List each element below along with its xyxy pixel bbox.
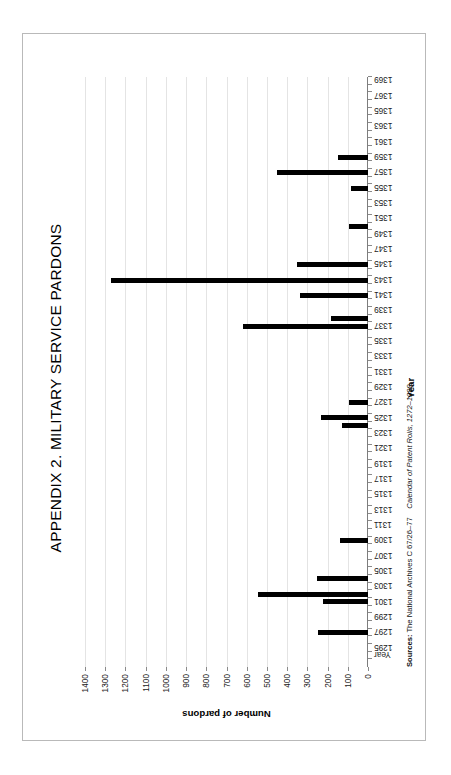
category-axis-label: 1361 [374,137,392,147]
category-axis-label: 1329 [374,382,392,392]
bar [321,415,369,420]
category-axis-tick [368,505,372,506]
category-axis-tick [368,620,372,621]
y-axis-tick-label: 500 [262,674,272,688]
gridline [105,77,106,667]
category-axis-tick [368,605,372,606]
rotation-stage: APPENDIX 2. MILITARY SERVICE PARDONS Num… [23,34,427,742]
y-axis-tick-label: 900 [181,674,191,688]
category-axis-tick [368,222,372,223]
category-axis-tick [368,245,372,246]
y-axis-tick [287,667,288,671]
y-axis-tick [368,667,369,671]
category-axis-label: 1301 [374,597,392,607]
y-axis-tick-label: 1400 [80,674,90,692]
category-axis-tick [368,275,372,276]
rotated-chart-container: APPENDIX 2. MILITARY SERVICE PARDONS Num… [23,34,427,742]
category-axis-tick [368,536,372,537]
bar [317,576,368,581]
category-axis-tick [368,306,372,307]
y-axis-tick [186,667,187,671]
y-axis-tick-label: 600 [242,674,252,688]
bar [349,224,368,229]
category-axis-tick [368,107,372,108]
category-axis-tick [368,643,372,644]
category-axis-label: 1295 [374,643,392,653]
bar [342,423,368,428]
category-axis-tick [368,314,372,315]
category-axis-tick [368,91,372,92]
gridline [227,77,228,667]
category-axis-tick [368,214,372,215]
category-axis-tick [368,628,372,629]
category-axis-tick [368,405,372,406]
category-axis-tick [368,291,372,292]
bar [349,400,368,405]
category-axis-tick [368,260,372,261]
gridline [287,77,288,667]
category-axis-tick [368,252,372,253]
category-axis-tick [368,467,372,468]
category-axis-tick [368,383,372,384]
category-axis-label: 1313 [374,505,392,515]
category-axis-tick [368,145,372,146]
category-axis-tick [368,237,372,238]
category-axis-label: 1311 [374,520,392,530]
category-axis-tick [368,428,372,429]
sources-label: Sources: [405,635,414,668]
category-axis-label: 1357 [374,167,392,177]
category-axis-label: 1319 [374,459,392,469]
category-axis-label: 1331 [374,367,392,377]
bar [297,262,368,267]
category-axis-label: 1363 [374,121,392,131]
category-axis-tick [368,482,372,483]
category-axis-tick [368,551,372,552]
category-axis-label: 1307 [374,551,392,561]
category-axis-label: 1349 [374,229,392,239]
category-axis-tick [368,589,372,590]
category-axis-tick [368,520,372,521]
category-axis-tick [368,559,372,560]
category-axis-tick [368,398,372,399]
category-axis-tick [368,574,372,575]
category-axis-tick [368,413,372,414]
gridline [247,77,248,667]
category-axis-tick [368,191,372,192]
gridline [186,77,187,667]
category-axis-tick [368,344,372,345]
y-axis-tick-label: 1200 [120,674,130,692]
category-axis-tick [368,122,372,123]
y-axis-tick-label: 300 [302,674,312,688]
y-axis-tick [105,667,106,671]
category-axis-label: 1339 [374,305,392,315]
category-axis-tick [368,137,372,138]
category-axis-tick [368,474,372,475]
category-axis-label: 1323 [374,428,392,438]
y-axis-tick [267,667,268,671]
bar [300,293,368,298]
category-axis-label: 1343 [374,275,392,285]
category-axis-tick [368,490,372,491]
category-axis-label: 1347 [374,244,392,254]
category-axis-label: 1305 [374,566,392,576]
bar [243,324,368,329]
category-axis-tick [368,635,372,636]
chart-page-frame: APPENDIX 2. MILITARY SERVICE PARDONS Num… [22,33,426,741]
gridline [206,77,207,667]
category-axis-label: 1369 [374,76,392,86]
category-axis-tick [368,444,372,445]
bar [351,186,368,191]
y-axis-title-label: Number of pardons [182,709,270,720]
y-axis-tick [247,667,248,671]
category-axis-label: 1337 [374,321,392,331]
bar [323,599,368,604]
category-axis-tick [368,582,372,583]
y-axis-tick [307,667,308,671]
category-axis-tick [368,375,372,376]
category-axis-label: 1327 [374,397,392,407]
chart-title: APPENDIX 2. MILITARY SERVICE PARDONS [47,34,65,742]
bar [338,155,368,160]
category-axis-label: 1317 [374,474,392,484]
bar [331,316,368,321]
category-axis-tick [368,360,372,361]
